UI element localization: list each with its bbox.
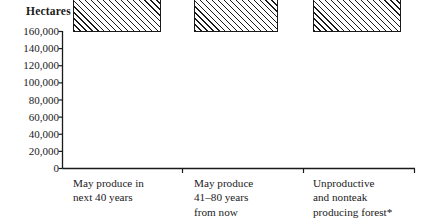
y-axis-tick-labels: 020,00040,00060,00080,000100,000120,0001… [0,25,59,175]
x-axis-category-labels: May produce in next 40 yearsMay produce … [0,176,428,223]
bar [194,0,278,32]
bar [313,0,401,32]
y-axis-tick-label: 60,000 [0,111,59,122]
x-axis-category-label: Unproductive and nonteak producing fores… [313,176,428,219]
y-axis-tick-label: 100,000 [0,77,59,88]
x-axis-category-label: May produce 41–80 years from now [194,176,309,219]
x-axis-tick-marks [183,169,415,174]
y-axis-tick-label: 20,000 [0,145,59,156]
y-axis-tick-label: 120,000 [0,60,59,71]
y-axis-title: Hectares [26,5,71,17]
bar-chart: Hectares 020,00040,00060,00080,000100,00… [0,0,428,223]
x-axis-category-label: May produce in next 40 years [73,176,188,205]
bar [73,0,161,32]
y-axis-tick-label: 0 [0,163,59,174]
y-axis-tick-label: 160,000 [0,26,59,37]
chart-axes [62,25,428,175]
plot-area [62,25,428,175]
y-axis-tick-label: 140,000 [0,43,59,54]
y-axis-tick-label: 80,000 [0,94,59,105]
y-axis-tick-label: 40,000 [0,128,59,139]
